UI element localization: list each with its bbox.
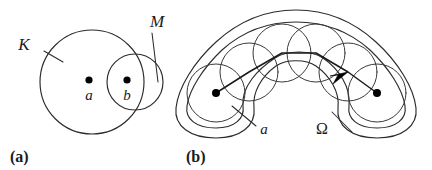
panel-b-group: a Ω (b) — [176, 10, 416, 166]
caption-panel-b: (b) — [186, 148, 206, 166]
label-omega: Ω — [316, 120, 328, 137]
point-b-dot — [123, 76, 130, 83]
label-m: M — [149, 12, 165, 31]
panel-a-group: K M a b (a) — [10, 12, 165, 166]
panel-b-point-a-dot — [212, 89, 220, 97]
leader-line-omega — [332, 112, 352, 132]
label-point-b: b — [123, 87, 131, 103]
traversal-path — [216, 53, 377, 93]
leader-line-m — [152, 33, 158, 82]
arrow-head-icon — [330, 72, 348, 84]
circle-m — [107, 54, 163, 110]
figure-container: K M a b (a) — [0, 0, 432, 170]
figure-svg: K M a b (a) — [0, 0, 432, 170]
panel-b-endpoint-dot — [373, 89, 381, 97]
label-panel-b-a: a — [260, 121, 268, 137]
point-a-dot — [85, 76, 92, 83]
label-point-a: a — [85, 87, 93, 103]
boundary-omega-inner — [187, 22, 405, 128]
caption-panel-a: (a) — [10, 148, 29, 166]
label-k: K — [17, 35, 31, 54]
